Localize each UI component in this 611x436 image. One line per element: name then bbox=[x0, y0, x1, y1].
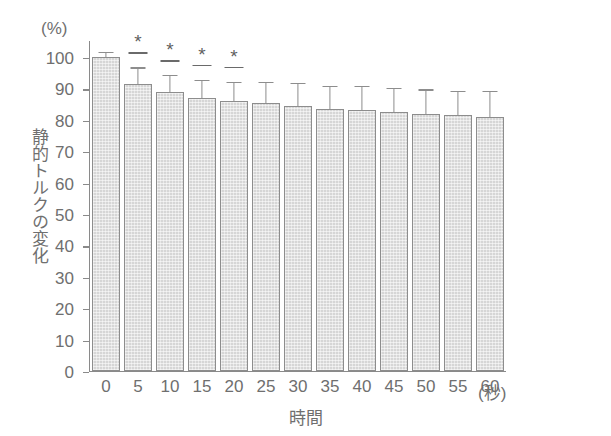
bar-group: 30 bbox=[282, 58, 314, 371]
y-axis-tick: 100 bbox=[83, 58, 89, 59]
asterisk-icon: * bbox=[225, 50, 244, 64]
asterisk-icon: * bbox=[129, 35, 148, 49]
x-axis-tick-label: 10 bbox=[161, 378, 180, 395]
error-bar-cap bbox=[99, 52, 114, 53]
y-axis-tick-label: 50 bbox=[55, 207, 74, 224]
x-axis-tick-label: 45 bbox=[385, 378, 404, 395]
bar-group: 0 bbox=[90, 58, 122, 371]
asterisk-icon: * bbox=[193, 48, 212, 62]
error-bar-stem bbox=[489, 91, 490, 118]
y-axis-unit-label: (%) bbox=[41, 19, 67, 39]
bar bbox=[380, 112, 408, 371]
y-axis-tick-label: 30 bbox=[55, 269, 74, 286]
bar-group: 55 bbox=[442, 58, 474, 371]
y-axis-tick: 30 bbox=[83, 278, 89, 279]
bar bbox=[220, 101, 248, 371]
error-bar-cap bbox=[387, 88, 402, 89]
x-axis-tick-label: 15 bbox=[193, 378, 212, 395]
x-axis-tick-label: 30 bbox=[289, 378, 308, 395]
bar bbox=[348, 110, 376, 371]
x-axis-tick-label: 55 bbox=[449, 378, 468, 395]
significance-marker: * bbox=[193, 48, 212, 66]
error-bar-stem bbox=[393, 88, 394, 113]
y-axis-tick-label: 0 bbox=[65, 364, 74, 381]
significance-underline bbox=[161, 60, 180, 61]
bar-group: *5 bbox=[122, 58, 154, 371]
error-bar-stem bbox=[297, 83, 298, 107]
y-axis-tick: 10 bbox=[83, 341, 89, 342]
bar bbox=[284, 106, 312, 371]
error-bar-cap bbox=[259, 82, 274, 83]
y-axis-tick: 90 bbox=[83, 89, 89, 90]
bar bbox=[444, 115, 472, 371]
y-axis-tick: 60 bbox=[83, 184, 89, 185]
error-bar-cap bbox=[163, 75, 178, 76]
error-bar-cap bbox=[451, 91, 466, 92]
bar bbox=[92, 57, 120, 371]
y-axis-tick-label: 70 bbox=[55, 144, 74, 161]
bar-group: 45 bbox=[378, 58, 410, 371]
y-axis-tick: 40 bbox=[83, 246, 89, 247]
significance-marker: * bbox=[225, 50, 244, 68]
y-axis-tick: 80 bbox=[83, 121, 89, 122]
error-bar-cap bbox=[291, 83, 306, 84]
bar-series: 0*5*10*15*202530354045505560 bbox=[90, 58, 505, 371]
y-axis-tick-label: 80 bbox=[55, 112, 74, 129]
bar-group: 60 bbox=[474, 58, 506, 371]
error-bar-cap bbox=[483, 91, 498, 92]
error-bar-stem bbox=[169, 75, 170, 92]
error-bar-cap bbox=[323, 86, 338, 87]
y-axis-tick-label: 10 bbox=[55, 332, 74, 349]
y-axis-title: 静的トルクの変化 bbox=[22, 128, 48, 264]
bar-group: 40 bbox=[346, 58, 378, 371]
y-axis-tick-label: 90 bbox=[55, 81, 74, 98]
y-axis-tick: 70 bbox=[83, 152, 89, 153]
x-axis-tick-label: 50 bbox=[417, 378, 436, 395]
error-bar-stem bbox=[329, 86, 330, 110]
bar bbox=[188, 98, 216, 371]
bar bbox=[316, 109, 344, 371]
bar bbox=[124, 84, 152, 371]
significance-underline bbox=[193, 65, 212, 66]
y-axis-tick-label: 60 bbox=[55, 175, 74, 192]
x-axis-tick-label: 35 bbox=[321, 378, 340, 395]
error-bar-stem bbox=[201, 80, 202, 99]
error-bar-stem bbox=[425, 89, 426, 114]
x-axis-unit-label: (秒) bbox=[478, 379, 506, 404]
y-axis-tick-label: 100 bbox=[46, 50, 74, 67]
significance-marker: * bbox=[129, 35, 148, 53]
x-axis-tick-label: 5 bbox=[133, 378, 142, 395]
significance-underline bbox=[225, 67, 244, 68]
y-axis-tick-label: 40 bbox=[55, 238, 74, 255]
significance-marker: * bbox=[161, 43, 180, 61]
x-axis-title: 時間 bbox=[0, 404, 611, 429]
chart-figure: (%) 静的トルクの変化 0102030405060708090100 0*5*… bbox=[0, 0, 611, 436]
y-axis-tick: 0 bbox=[83, 372, 89, 373]
error-bar-stem bbox=[265, 82, 266, 104]
x-axis-tick-label: 0 bbox=[101, 378, 110, 395]
error-bar-cap bbox=[131, 67, 146, 68]
y-axis-tick: 50 bbox=[83, 215, 89, 216]
y-axis-tick: 20 bbox=[83, 309, 89, 310]
bar bbox=[476, 117, 504, 371]
bar-group: 25 bbox=[250, 58, 282, 371]
bar bbox=[412, 114, 440, 371]
x-axis-tick-label: 25 bbox=[257, 378, 276, 395]
asterisk-icon: * bbox=[161, 43, 180, 57]
bar-group: 50 bbox=[410, 58, 442, 371]
error-bar-stem bbox=[233, 82, 234, 102]
plot-area: 0102030405060708090100 0*5*10*15*2025303… bbox=[89, 58, 505, 372]
bar-group: 35 bbox=[314, 58, 346, 371]
error-bar-stem bbox=[137, 67, 138, 84]
bar bbox=[252, 103, 280, 371]
y-axis-tick-label: 20 bbox=[55, 301, 74, 318]
x-axis-tick-label: 20 bbox=[225, 378, 244, 395]
bar-group: *15 bbox=[186, 58, 218, 371]
error-bar-cap bbox=[419, 89, 434, 90]
bar-group: *10 bbox=[154, 58, 186, 371]
error-bar-cap bbox=[227, 82, 242, 83]
bar bbox=[156, 92, 184, 371]
error-bar-stem bbox=[457, 91, 458, 116]
error-bar-cap bbox=[195, 80, 210, 81]
significance-underline bbox=[129, 52, 148, 53]
